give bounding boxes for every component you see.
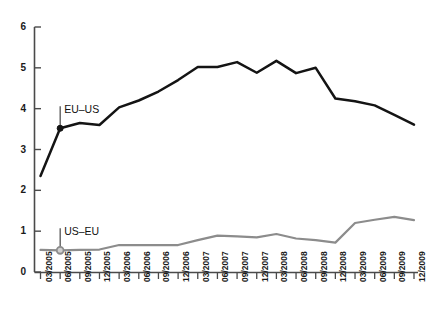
x-axis-tick-label: 06/2006 — [143, 251, 152, 282]
x-axis-tick-label: 06/2009 — [379, 251, 388, 282]
x-axis-tick-label: 06/2008 — [300, 251, 309, 282]
x-axis-tick-label: 06/2005 — [64, 251, 73, 282]
x-axis-tick-label: 03/2008 — [280, 251, 289, 282]
series-annotation-label: US–EU — [64, 226, 99, 237]
x-axis-tick-label: 09/2009 — [398, 251, 407, 282]
x-axis-tick-label: 09/2007 — [241, 251, 250, 282]
y-axis-tick-label: 6 — [8, 22, 26, 32]
y-axis-tick-label: 1 — [8, 226, 26, 236]
y-axis-tick-label: 4 — [8, 104, 26, 114]
y-axis-tick-label: 0 — [8, 267, 26, 277]
series-line-euus — [41, 61, 415, 176]
x-axis-tick-label: 09/2008 — [320, 251, 329, 282]
series-marker-euus — [57, 125, 63, 131]
data-series-layer — [41, 61, 415, 250]
x-axis-tick-label: 12/2008 — [339, 251, 348, 282]
x-axis-tick-label: 03/2007 — [202, 251, 211, 282]
x-axis-tick-label: 03/2009 — [359, 251, 368, 282]
x-axis-tick-label: 12/2007 — [261, 251, 270, 282]
series-annotation-label: EU–US — [64, 104, 99, 115]
y-axis-tick-label: 5 — [8, 63, 26, 73]
x-axis-tick-label: 03/2006 — [123, 251, 132, 282]
x-axis-tick-label: 12/2006 — [182, 251, 191, 282]
x-axis-tick-label: 09/2006 — [162, 251, 171, 282]
x-axis-tick-label: 12/2009 — [418, 251, 427, 282]
x-axis-tick-label: 03/2005 — [45, 251, 54, 282]
y-axis-tick-label: 2 — [8, 185, 26, 195]
x-axis-tick-label: 06/2007 — [221, 251, 230, 282]
y-axis-tick-label: 3 — [8, 145, 26, 155]
x-axis-tick-label: 12/2005 — [103, 251, 112, 282]
y-axis-ticks — [35, 27, 42, 272]
x-axis-tick-label: 09/2005 — [84, 251, 93, 282]
